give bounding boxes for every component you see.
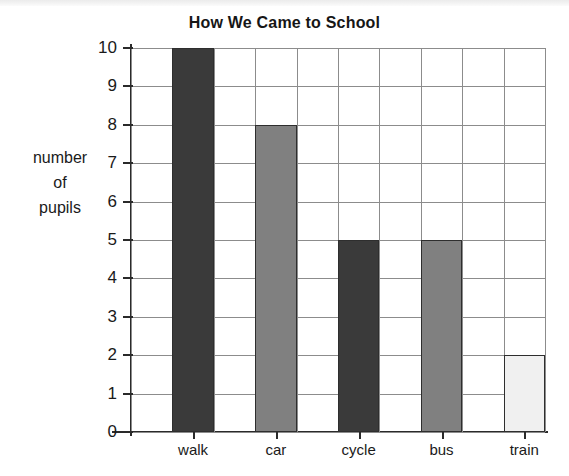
y-axis-title-line-2: of	[8, 170, 112, 195]
y-axis-tick	[123, 239, 133, 241]
y-axis-tick	[123, 124, 133, 126]
bar-car	[255, 125, 296, 432]
x-axis-label-walk: walk	[152, 441, 233, 458]
y-axis-tick-label: 10	[57, 39, 117, 56]
y-axis-tick-label: 3	[57, 308, 117, 325]
y-axis-tick	[123, 85, 133, 87]
bar-cycle	[338, 240, 379, 432]
x-axis-tick	[276, 432, 278, 439]
x-axis-label-bus: bus	[401, 441, 482, 458]
y-axis-tick-label: 0	[57, 423, 117, 440]
x-axis-label-train: train	[484, 441, 565, 458]
y-axis-tick	[123, 393, 133, 395]
y-axis-tick	[123, 316, 133, 318]
y-axis-tick	[123, 354, 133, 356]
y-axis-tick	[123, 162, 133, 164]
y-axis-tick-label: 6	[57, 193, 117, 210]
x-axis-label-car: car	[235, 441, 316, 458]
y-axis-tick-label: 7	[57, 154, 117, 171]
y-axis-tick	[123, 201, 133, 203]
y-axis-tick-label: 1	[57, 385, 117, 402]
x-axis-label-cycle: cycle	[318, 441, 399, 458]
gridline-vertical	[214, 48, 215, 432]
y-axis-tick-label: 2	[57, 346, 117, 363]
y-axis-tick-label: 5	[57, 231, 117, 248]
y-axis-tick	[123, 277, 133, 279]
page-top-band	[0, 0, 569, 6]
x-axis-tick	[442, 432, 444, 439]
x-axis-tick	[524, 432, 526, 439]
bar-bus	[421, 240, 462, 432]
y-axis-tick-label: 8	[57, 116, 117, 133]
gridline-vertical	[297, 48, 298, 432]
x-axis-tick	[359, 432, 361, 439]
y-axis-tick	[123, 431, 133, 433]
y-axis-tick-label: 4	[57, 269, 117, 286]
chart-title: How We Came to School	[0, 14, 569, 32]
y-axis-tick	[123, 47, 133, 49]
x-axis-tick	[193, 432, 195, 439]
bar-walk	[172, 48, 213, 432]
y-axis-tick-label: 9	[57, 77, 117, 94]
bar-train	[504, 355, 545, 432]
gridline-vertical	[545, 48, 546, 432]
